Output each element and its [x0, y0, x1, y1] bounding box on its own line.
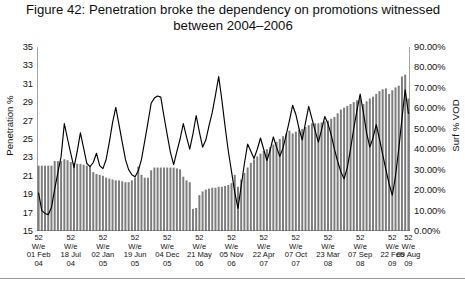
bar [214, 188, 216, 231]
bar [124, 182, 126, 231]
bar [359, 99, 361, 231]
bar [50, 166, 52, 231]
right-tick-label: 70.00% [414, 83, 446, 93]
bar [179, 169, 181, 231]
bar [41, 166, 43, 231]
bar [243, 173, 245, 231]
right-tick-label: 20.00% [414, 185, 446, 195]
figure-container: Figure 42: Penetration broke the depende… [0, 0, 465, 285]
bar [333, 117, 335, 231]
bar [218, 187, 220, 231]
bar [401, 76, 403, 231]
bar [314, 123, 316, 231]
chart-canvas [37, 47, 410, 231]
bar [186, 180, 188, 231]
right-tick-label: 10.00% [414, 206, 446, 216]
bar [147, 178, 149, 231]
bar [205, 190, 207, 231]
bar [182, 177, 184, 231]
plot-area [37, 47, 410, 231]
left-tick-label: 31 [23, 79, 33, 89]
bar [321, 122, 323, 231]
bar [95, 174, 97, 231]
bar [108, 179, 110, 231]
bar [362, 104, 364, 231]
chart-title: Figure 42: Penetration broke the depende… [18, 2, 448, 34]
bar [115, 180, 117, 231]
bar [73, 163, 75, 231]
x-tick-label: 52W/e09 Aug09 [386, 234, 430, 268]
bar [298, 130, 300, 231]
bar [259, 154, 261, 231]
bar [169, 168, 171, 231]
bar [263, 151, 265, 231]
bar [137, 167, 139, 231]
bar [350, 104, 352, 231]
bar [76, 164, 78, 231]
left-tick-label: 33 [23, 60, 33, 70]
bar [192, 209, 194, 231]
bar [234, 175, 236, 231]
bar [128, 182, 130, 231]
bar [202, 191, 204, 231]
bar [86, 166, 88, 231]
bar [375, 94, 377, 231]
bar [211, 188, 213, 231]
bar [385, 88, 387, 231]
bar [102, 176, 104, 231]
bar [131, 180, 133, 231]
bar [256, 156, 258, 231]
bar [224, 186, 226, 231]
right-axis-title: Surf % VOD [450, 76, 461, 176]
bar [285, 133, 287, 231]
bar [67, 160, 69, 231]
bar [173, 168, 175, 231]
left-axis-title: Penetration % [4, 76, 15, 176]
bar [272, 145, 274, 231]
bar [121, 181, 123, 231]
bar [324, 122, 326, 231]
bar [99, 175, 101, 231]
bar [407, 99, 409, 231]
left-tick-label: 35 [23, 42, 33, 52]
x-axis-tick-labels: 52W/e01 Feb0452W/e18 Jul0452W/e02 Jan055… [37, 234, 410, 282]
bar [305, 127, 307, 231]
bar [208, 189, 210, 231]
right-tick-label: 30.00% [414, 165, 446, 175]
bar [231, 183, 233, 231]
bar [160, 168, 162, 231]
bar [47, 166, 49, 231]
bar [163, 168, 165, 231]
bar [89, 167, 91, 231]
bar [247, 168, 249, 231]
bar [369, 99, 371, 231]
bar [292, 133, 294, 231]
right-tick-label: 60.00% [414, 103, 446, 113]
bar [269, 147, 271, 231]
bar [276, 142, 278, 231]
bar [337, 113, 339, 231]
bottom-rule [0, 278, 465, 279]
bar [388, 94, 390, 231]
right-tick-label: 50.00% [414, 124, 446, 134]
bar [378, 91, 380, 231]
bar [144, 178, 146, 231]
bar [343, 108, 345, 231]
bar [157, 168, 159, 231]
bar [227, 185, 229, 231]
bar [153, 168, 155, 231]
right-tick-label: 80.00% [414, 62, 446, 72]
bar [253, 159, 255, 231]
bar [395, 87, 397, 231]
bar [150, 170, 152, 231]
bar [266, 149, 268, 231]
left-tick-label: 21 [23, 171, 33, 181]
bar [308, 125, 310, 231]
right-tick-label: 90.00% [414, 42, 446, 52]
bar [166, 168, 168, 231]
bar [176, 168, 178, 231]
bar [118, 180, 120, 231]
bar [44, 166, 46, 231]
bar [327, 121, 329, 231]
left-tick-label: 29 [23, 97, 33, 107]
